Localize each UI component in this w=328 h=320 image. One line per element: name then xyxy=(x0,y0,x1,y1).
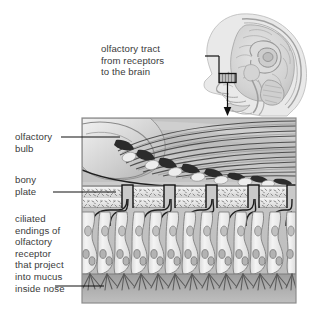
olfactory-epithelium-detail xyxy=(80,118,297,303)
olfactory-epithelium-highlight-box xyxy=(219,74,236,83)
label-ciliated-endings: ciliated endings of olfactory receptor t… xyxy=(15,213,87,294)
label-olfactory-bulb: olfactory bulb xyxy=(15,131,85,154)
label-bony-plate: bony plate xyxy=(15,174,85,197)
figure-root: olfactory tract from receptors to the br… xyxy=(0,0,328,320)
label-olfactory-tract: olfactory tract from receptors to the br… xyxy=(101,43,205,78)
callout-arrowhead xyxy=(224,107,232,116)
